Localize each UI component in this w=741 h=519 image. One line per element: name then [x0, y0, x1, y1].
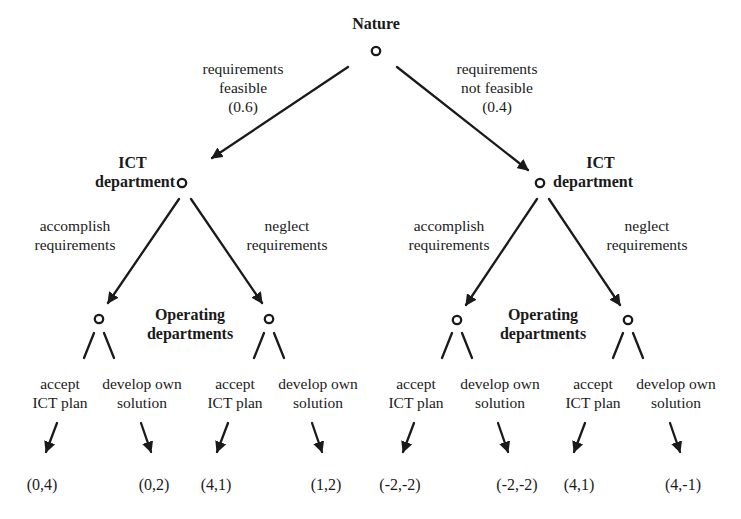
action-line: ICT plan	[20, 393, 100, 412]
action-label-1: accept ICT plan	[20, 374, 100, 412]
stroke-od3-develop	[462, 333, 472, 358]
node-ict-left	[178, 179, 186, 187]
branch-label-line: requirements	[394, 235, 504, 254]
action-line: develop own	[268, 374, 368, 393]
branch-label-line: accomplish	[394, 216, 504, 235]
payoff-2: (0,2)	[124, 475, 184, 494]
branch-probability: (0.6)	[183, 97, 303, 116]
payoff-6: (-2,-2)	[482, 475, 552, 494]
branch-label-line: neglect	[592, 216, 702, 235]
player-ict-right: ICT department	[553, 153, 648, 191]
action-line: ICT plan	[376, 393, 456, 412]
payoff-1: (0,4)	[12, 475, 72, 494]
player-line: Operating	[483, 305, 603, 324]
action-line: develop own	[92, 374, 192, 393]
branch-label-line: not feasible	[432, 78, 562, 97]
player-line: department	[80, 172, 175, 191]
stroke-od4-develop	[633, 333, 643, 358]
node-nature	[372, 47, 380, 55]
node-od-3	[453, 316, 461, 324]
action-line: develop own	[450, 374, 550, 393]
stroke-od4-accept	[613, 333, 623, 358]
leaf-arrow-5	[403, 423, 414, 452]
branch-label-feasible: requirements feasible (0.6)	[183, 59, 303, 116]
branch-label-line: requirements	[232, 235, 342, 254]
branch-label-line: neglect	[232, 216, 342, 235]
branch-label-line: requirements	[592, 235, 702, 254]
action-line: solution	[450, 393, 550, 412]
node-od-1	[95, 315, 103, 323]
branch-label-line: requirements	[183, 59, 303, 78]
payoff-7: (4,1)	[549, 475, 609, 494]
action-line: solution	[626, 393, 726, 412]
branch-label-line: requirements	[20, 235, 130, 254]
player-operating-right: Operating departments	[483, 305, 603, 343]
action-label-5: accept ICT plan	[376, 374, 456, 412]
node-od-2	[265, 315, 273, 323]
action-line: accept	[553, 374, 633, 393]
player-line: ICT	[80, 153, 175, 172]
payoff-8: (4,-1)	[653, 475, 713, 494]
leaf-arrow-6	[498, 423, 508, 452]
action-label-2: develop own solution	[92, 374, 192, 412]
stroke-od1-accept	[84, 333, 94, 358]
player-ict-left: ICT department	[80, 153, 175, 191]
leaf-arrow-8	[670, 423, 680, 452]
branch-label-line: feasible	[183, 78, 303, 97]
game-tree-canvas	[0, 0, 741, 519]
branch-label-not-feasible: requirements not feasible (0.4)	[432, 59, 562, 116]
branch-label-accomplish-left: accomplish requirements	[20, 216, 130, 254]
leaf-arrow-4	[312, 423, 322, 452]
player-line: departments	[130, 324, 250, 343]
branch-label-neglect-right: neglect requirements	[592, 216, 702, 254]
action-line: accept	[20, 374, 100, 393]
leaf-arrow-2	[141, 423, 151, 452]
player-line: department	[553, 172, 648, 191]
action-label-6: develop own solution	[450, 374, 550, 412]
player-line: ICT	[553, 153, 648, 172]
branch-label-line: accomplish	[20, 216, 130, 235]
payoff-5: (-2,-2)	[365, 475, 435, 494]
payoff-3: (4,1)	[186, 475, 246, 494]
leaf-arrow-7	[574, 423, 585, 452]
action-line: develop own	[626, 374, 726, 393]
action-label-3: accept ICT plan	[195, 374, 275, 412]
action-line: accept	[195, 374, 275, 393]
node-od-4	[624, 316, 632, 324]
action-line: solution	[268, 393, 368, 412]
stroke-od1-develop	[104, 333, 114, 358]
stroke-od3-accept	[442, 333, 452, 358]
leaf-arrow-1	[46, 423, 57, 452]
payoff-4: (1,2)	[296, 475, 356, 494]
action-line: accept	[376, 374, 456, 393]
player-nature: Nature	[336, 14, 416, 33]
branch-label-neglect-left: neglect requirements	[232, 216, 342, 254]
action-label-7: accept ICT plan	[553, 374, 633, 412]
branch-label-line: requirements	[432, 59, 562, 78]
action-label-8: develop own solution	[626, 374, 726, 412]
stroke-od2-accept	[254, 333, 264, 358]
action-line: solution	[92, 393, 192, 412]
action-line: ICT plan	[553, 393, 633, 412]
action-label-4: develop own solution	[268, 374, 368, 412]
branch-probability: (0.4)	[432, 97, 562, 116]
branch-label-accomplish-right: accomplish requirements	[394, 216, 504, 254]
player-line: departments	[483, 324, 603, 343]
stroke-od2-develop	[274, 333, 284, 358]
player-operating-left: Operating departments	[130, 305, 250, 343]
player-line: Operating	[130, 305, 250, 324]
node-ict-right	[536, 179, 544, 187]
leaf-arrow-3	[217, 423, 228, 452]
action-line: ICT plan	[195, 393, 275, 412]
